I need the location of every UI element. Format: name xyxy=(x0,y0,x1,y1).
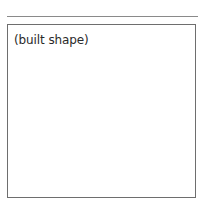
placeholder-label: (built shape) xyxy=(14,33,89,47)
horizontal-rule xyxy=(7,16,198,17)
page-canvas: (built shape) xyxy=(0,0,198,200)
figure-placeholder-frame: (built shape) xyxy=(7,24,196,198)
